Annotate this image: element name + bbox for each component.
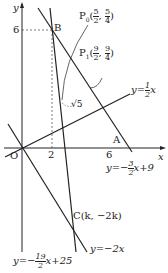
line-label-neg-nineteen-halves: y=−192x+25 (13, 253, 72, 270)
distance-label: √5 (71, 100, 82, 109)
line-label-neg-two-x: y=−2x (90, 244, 124, 254)
y-tick-6: 6 (13, 25, 19, 35)
origin-label: O (10, 151, 18, 161)
x-tick-2: 2 (48, 150, 54, 160)
point-b-label: B (54, 23, 61, 33)
x-axis-label: x (158, 152, 164, 162)
point-a-label: A (113, 135, 120, 145)
line-label-half-x: y=12x (131, 82, 156, 99)
x-tick-6: 6 (106, 150, 112, 160)
point-p1-label: P1(92, 94) (79, 45, 114, 62)
point-c-label: C(k, −2k) (73, 211, 122, 221)
point-p0-label: P0(52, 54) (79, 8, 114, 25)
y-axis-label: y (13, 3, 19, 13)
graph-lines (0, 0, 168, 273)
line-label-neg-three-halves: y=−32x+9 (106, 160, 154, 177)
diagram: y x O 2 6 6 B A C(k, −2k) P0(52, 54) P1(… (0, 0, 168, 273)
